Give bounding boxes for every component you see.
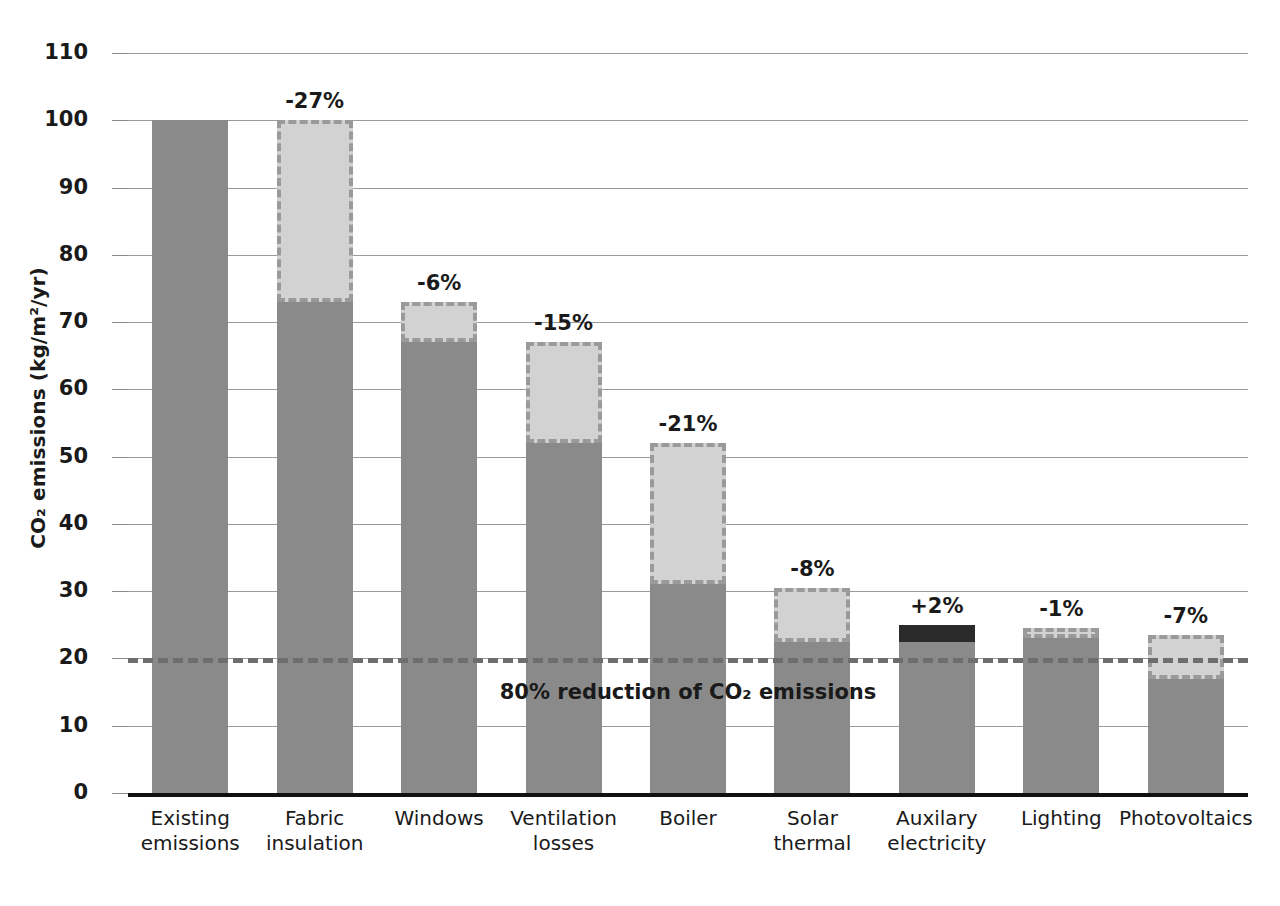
bar-delta-label: -6% [377, 271, 501, 295]
tick-mark-60 [112, 389, 128, 390]
bar-delta-label: -8% [750, 557, 874, 581]
y-tick-label-60: 60 [28, 378, 88, 399]
bar-boiler[interactable]: -21% [650, 443, 726, 793]
bar-delta-segment-decrease [526, 342, 602, 443]
category-label-photovoltaics: Photovoltaics [1096, 806, 1276, 831]
tick-mark-50 [112, 457, 128, 458]
bar-delta-label: -27% [253, 89, 377, 113]
tick-mark-30 [112, 591, 128, 592]
bar-delta-segment-decrease [650, 443, 726, 584]
bar-delta-segment-increase [899, 625, 975, 642]
category-label-line: Photovoltaics [1096, 806, 1276, 831]
y-tick-label-30: 30 [28, 580, 88, 601]
tick-mark-110 [112, 53, 128, 54]
bar-delta-segment-decrease [1148, 635, 1224, 679]
bar-base-segment [526, 443, 602, 793]
bar-base-segment [774, 642, 850, 793]
tick-mark-10 [112, 726, 128, 727]
bar-delta-segment-decrease [774, 588, 850, 642]
bar-delta-label: -15% [502, 311, 626, 335]
bar-lighting[interactable]: -1% [1023, 628, 1099, 793]
y-tick-label-110: 110 [28, 42, 88, 63]
target-reference-line [128, 658, 1248, 663]
y-tick-label-100: 100 [28, 109, 88, 130]
bar-ventilation-losses[interactable]: -15% [526, 342, 602, 793]
bar-delta-label: -1% [999, 597, 1123, 621]
bar-delta-label: -7% [1124, 604, 1248, 628]
x-axis-line [128, 793, 1248, 797]
bar-windows[interactable]: -6% [401, 302, 477, 793]
y-tick-label-40: 40 [28, 513, 88, 534]
co2-waterfall-chart: CO₂ emissions (kg/m²/yr) 010203040506070… [0, 0, 1280, 906]
bar-delta-segment-decrease [1023, 628, 1099, 638]
bar-auxilary-electricity[interactable]: +2% [899, 625, 975, 793]
y-tick-label-80: 80 [28, 244, 88, 265]
tick-mark-20 [112, 658, 128, 659]
bar-delta-label: +2% [875, 594, 999, 618]
y-tick-label-90: 90 [28, 177, 88, 198]
bar-base-segment [899, 642, 975, 793]
tick-mark-80 [112, 255, 128, 256]
tick-mark-70 [112, 322, 128, 323]
y-tick-label-0: 0 [28, 782, 88, 803]
bar-base-segment [401, 342, 477, 793]
tick-mark-100 [112, 120, 128, 121]
tick-mark-0 [112, 793, 128, 794]
target-reference-label: 80% reduction of CO₂ emissions [128, 680, 1248, 704]
category-label-line: losses [474, 831, 654, 856]
bar-base-segment [277, 302, 353, 793]
bar-delta-segment-decrease [401, 302, 477, 342]
tick-mark-90 [112, 188, 128, 189]
y-tick-label-50: 50 [28, 446, 88, 467]
y-tick-label-10: 10 [28, 715, 88, 736]
y-tick-label-20: 20 [28, 647, 88, 668]
category-label-line: electricity [847, 831, 1027, 856]
gridline-110 [128, 53, 1248, 54]
category-label-line: insulation [225, 831, 405, 856]
bar-delta-label: -21% [626, 412, 750, 436]
bar-delta-segment-decrease [277, 120, 353, 302]
y-tick-label-70: 70 [28, 311, 88, 332]
tick-mark-40 [112, 524, 128, 525]
